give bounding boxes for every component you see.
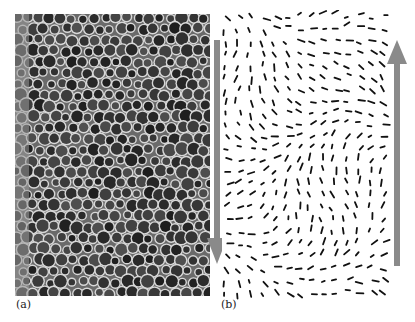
panel-a-micrograph — [15, 14, 210, 296]
panel-b-vector-field — [222, 10, 412, 300]
cell-pattern-image — [15, 14, 210, 296]
vector-field-image — [222, 10, 412, 300]
panel-a-label: (a) — [16, 298, 31, 311]
up-arrow-icon — [386, 40, 408, 268]
panel-b-label: (b) — [221, 298, 237, 311]
